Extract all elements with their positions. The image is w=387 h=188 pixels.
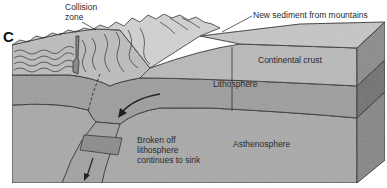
new-sediment-label: New sediment from mountains <box>253 11 368 20</box>
asthenosphere-label: Asthenosphere <box>233 140 290 149</box>
collision-zone-label-line1: Collision <box>65 3 97 12</box>
broken-lithosphere-label-line2: lithosphere <box>137 146 179 155</box>
broken-lithosphere-label-line1: Broken off <box>137 136 176 145</box>
panel-letter: C <box>3 29 14 45</box>
collision-zone-label-line2: zone <box>65 13 83 22</box>
block-diagram: C Collision zone New sediment from mount… <box>0 0 387 188</box>
lithosphere-label: Lithosphere <box>213 80 257 89</box>
broken-lithosphere-label-line3: continues to sink <box>137 156 200 165</box>
new-sediment-leader <box>222 16 252 32</box>
asthenosphere-layer <box>12 104 357 183</box>
top-surface <box>200 22 385 48</box>
continental-crust-label: Continental crust <box>258 56 322 65</box>
